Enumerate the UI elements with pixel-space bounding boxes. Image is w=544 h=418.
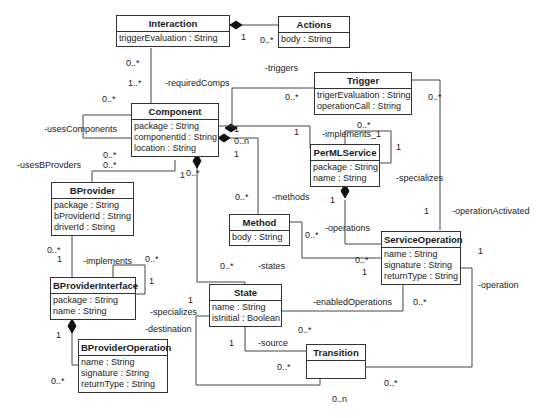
attribute: returnType : String	[81, 379, 165, 390]
multiplicity: 0..*	[51, 376, 65, 386]
multiplicity: 0..*	[355, 255, 369, 265]
class-name: PerMLService	[311, 145, 379, 161]
multiplicity: 0..*	[102, 94, 116, 104]
multiplicity: 1	[56, 330, 61, 340]
multiplicity: 1	[478, 246, 483, 256]
class-interaction[interactable]: Interaction triggerEvaluation : String	[116, 15, 230, 47]
class-component[interactable]: Component package : String componentId :…	[131, 103, 219, 157]
class-method[interactable]: Method body : String	[229, 214, 290, 246]
role-label: -specializes	[396, 173, 443, 183]
class-name: BProvider	[52, 183, 133, 199]
role-label: -enabledOperations	[313, 297, 392, 307]
class-attributes: name : String signature : String returnT…	[79, 356, 167, 392]
composition-diamond-icon	[218, 134, 230, 142]
multiplicity: 0..*	[305, 230, 319, 240]
attribute: location : String	[134, 143, 216, 154]
class-name: Actions	[279, 17, 349, 33]
attribute: isInitial : Boolean	[212, 313, 279, 324]
role-label: -usesBProvders	[17, 160, 81, 170]
class-serviceoperation[interactable]: ServiceOperation name : String signature…	[381, 231, 461, 285]
class-name: Trigger	[315, 73, 411, 89]
multiplicity: 0..*	[235, 192, 249, 202]
attribute: name : String	[212, 302, 279, 313]
multiplicity: 0..*	[126, 58, 140, 68]
class-attributes: package : String componentId : String lo…	[132, 120, 218, 156]
attribute: operationCall : String	[317, 101, 409, 112]
multiplicity: 1	[180, 170, 185, 180]
multiplicity: 1	[234, 149, 239, 159]
class-name: Transition	[307, 345, 365, 361]
class-state[interactable]: State name : String isInitial : Boolean	[209, 284, 282, 327]
attribute: name : String	[53, 306, 133, 317]
attribute: signature : String	[81, 368, 165, 379]
role-label: -states	[258, 261, 285, 271]
class-attributes: name : String isInitial : Boolean	[210, 301, 281, 326]
attribute: componentId : String	[134, 132, 216, 143]
attribute: name : String	[384, 249, 458, 260]
class-bproviderinterface[interactable]: BProviderInterface package : String name…	[50, 277, 136, 320]
role-label: -source	[258, 338, 288, 348]
attribute: body : String	[281, 34, 347, 45]
class-name: BProviderInterface	[51, 278, 135, 294]
assoc-component-method	[224, 138, 258, 214]
class-name: ServiceOperation	[382, 232, 460, 248]
multiplicity: 1	[330, 195, 335, 205]
class-transition[interactable]: Transition	[306, 344, 366, 379]
class-name: Interaction	[117, 16, 229, 32]
multiplicity: 0..*	[357, 120, 371, 130]
class-trigger[interactable]: Trigger trigerEvaluation : String operat…	[314, 72, 412, 115]
multiplicity: 0..n	[234, 136, 249, 146]
class-attributes: package : String bProviderId : String dr…	[52, 199, 133, 235]
class-attributes: body : String	[230, 231, 289, 245]
role-label: -destination	[145, 324, 192, 334]
attribute: triggerEvaluation : String	[119, 33, 227, 44]
multiplicity: 0..*	[145, 254, 159, 264]
multiplicity: 1	[149, 276, 154, 286]
assoc-required-comps	[232, 88, 320, 124]
role-label: -operations	[325, 223, 370, 233]
composition-diamond-icon	[230, 21, 242, 29]
attribute: name : String	[313, 173, 377, 184]
multiplicity: 1	[241, 32, 246, 42]
role-label: -specializes	[150, 307, 197, 317]
class-attributes: trigerEvaluation : String operationCall …	[315, 89, 411, 114]
class-attributes	[307, 361, 365, 378]
class-name: BProviderOperation	[79, 340, 167, 356]
attribute: body : String	[232, 232, 287, 243]
attribute: name : String	[81, 357, 165, 368]
multiplicity: 1..*	[128, 78, 142, 88]
role-label: -methods	[272, 192, 310, 202]
multiplicity: 1	[229, 338, 234, 348]
attribute: package : String	[54, 200, 131, 211]
multiplicity: 0..*	[186, 168, 200, 178]
multiplicity: 0..n	[332, 394, 347, 404]
multiplicity: 0..*	[428, 92, 442, 102]
role-label: -operation	[478, 280, 519, 290]
multiplicity: 1	[396, 142, 401, 152]
multiplicity: 1	[362, 267, 367, 277]
multiplicity: 0..*	[103, 160, 117, 170]
class-attributes: package : String name : String	[51, 294, 135, 319]
role-label: -triggers	[265, 63, 298, 73]
multiplicity: 1	[294, 127, 299, 137]
class-name: Method	[230, 215, 289, 231]
multiplicity: 1	[234, 124, 239, 134]
assoc-perml-operations	[345, 200, 383, 244]
attribute: package : String	[53, 295, 133, 306]
class-permlservice[interactable]: PerMLService package : String name : Str…	[310, 144, 380, 187]
class-actions[interactable]: Actions body : String	[278, 16, 350, 48]
class-bprovider[interactable]: BProvider package : String bProviderId :…	[51, 182, 134, 236]
role-label: -implements_1	[322, 129, 381, 139]
multiplicity: 0..*	[277, 362, 291, 372]
class-attributes: triggerEvaluation : String	[117, 32, 229, 46]
class-name: Component	[132, 104, 218, 120]
class-bprovideroperation[interactable]: BProviderOperation name : String signatu…	[78, 339, 168, 393]
attribute: package : String	[313, 162, 377, 173]
multiplicity: 0..*	[285, 92, 299, 102]
attribute: returnType : String	[384, 271, 458, 282]
role-label: -implements	[83, 256, 132, 266]
class-name: State	[210, 285, 281, 301]
class-attributes: package : String name : String	[311, 161, 379, 186]
multiplicity: 1	[57, 254, 62, 264]
role-label: -usesComponents	[44, 124, 117, 134]
